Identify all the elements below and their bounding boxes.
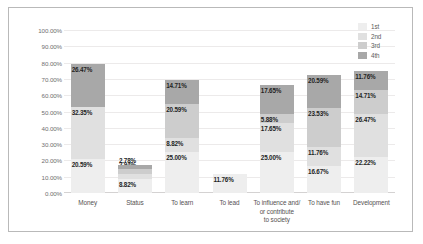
bar-segment-value-label: 14.71% <box>355 92 375 99</box>
bar-segment-value-label: 23.53% <box>308 110 328 117</box>
bar-segment-value-label: 17.65% <box>261 87 281 94</box>
bar-segment-value-label: 16.67% <box>308 168 328 175</box>
x-axis-category-label-line: to society <box>247 216 306 225</box>
bar-segment[interactable]: 2.94% <box>118 169 152 174</box>
y-axis-tick-label: 0.00% <box>10 190 62 197</box>
bar-segment-value-label: 17.65% <box>261 125 281 132</box>
legend-item[interactable]: 2nd <box>358 32 402 42</box>
bar-segment[interactable]: 32.35% <box>71 107 105 160</box>
bar-segment[interactable]: 8.82% <box>118 179 152 193</box>
legend-item[interactable]: 3rd <box>358 41 402 51</box>
legend-label: 4th <box>371 52 379 59</box>
y-axis-tick-label: 100.00% <box>10 27 62 34</box>
bar-segment-value-label: 2.78% <box>119 157 136 164</box>
bar-segment[interactable]: 20.59% <box>71 159 105 193</box>
bar-segment[interactable]: 11.76% <box>354 71 388 90</box>
bar-segment[interactable]: 8.82% <box>165 138 199 152</box>
gridline <box>64 112 395 113</box>
legend-label: 1st <box>371 23 379 30</box>
y-axis-tick-label: 70.00% <box>10 75 62 82</box>
y-axis-tick-label: 80.00% <box>10 59 62 66</box>
y-axis-tick-label: 50.00% <box>10 108 62 115</box>
legend-item[interactable]: 1st <box>358 22 402 32</box>
bar-segment-value-label: 26.47% <box>72 66 92 73</box>
bar-segment[interactable]: 25.00% <box>260 152 294 193</box>
gridline <box>64 144 395 145</box>
bar-segment-value-label: 14.71% <box>166 82 186 89</box>
bar-segment-value-label: 25.00% <box>166 154 186 161</box>
x-axis-category-label: Development <box>342 199 401 208</box>
bar-segment[interactable]: 20.59% <box>165 104 199 138</box>
bar-segment[interactable]: 14.71% <box>165 80 199 104</box>
bar-segment[interactable]: 2.94% <box>118 174 152 179</box>
bar-segment[interactable]: 17.65% <box>260 85 294 114</box>
y-axis-tick-label: 30.00% <box>10 141 62 148</box>
bar-segment[interactable]: 11.76% <box>307 147 341 166</box>
bar-segment-value-label: 32.35% <box>72 109 92 116</box>
gridline <box>64 63 395 64</box>
legend-swatch <box>358 33 367 40</box>
y-axis-tick-label: 90.00% <box>10 43 62 50</box>
x-axis-category-label-line: Development <box>342 199 401 208</box>
gridline <box>64 30 395 31</box>
gridline <box>64 46 395 47</box>
legend-swatch <box>358 23 367 30</box>
gridline <box>64 79 395 80</box>
legend-label: 2nd <box>371 33 381 40</box>
bar-segment[interactable]: 14.71% <box>354 90 388 114</box>
bar-segment-value-label: 8.82% <box>119 181 136 188</box>
bar-segment[interactable]: 20.59% <box>307 75 341 109</box>
legend-item[interactable]: 4th <box>358 51 402 61</box>
bar-segment-value-label: 5.88% <box>261 116 278 123</box>
bar-segment-value-label: 20.59% <box>72 161 92 168</box>
plot-area: 20.59%32.35%26.47%8.82%2.94%2.94%2.78%25… <box>64 30 395 193</box>
bar-segment[interactable]: 5.88% <box>260 114 294 124</box>
bar-segment-value-label: 20.59% <box>308 77 328 84</box>
gridline <box>64 160 395 161</box>
legend-swatch <box>358 52 367 59</box>
bar-segment-value-label: 26.47% <box>355 116 375 123</box>
gridline <box>64 95 395 96</box>
bar-segment[interactable]: 26.47% <box>354 114 388 157</box>
bar-segment-value-label: 22.22% <box>355 159 375 166</box>
bar-segment-value-label: 11.76% <box>308 149 328 156</box>
bar-segment-value-label: 25.00% <box>261 154 281 161</box>
gridline <box>64 128 395 129</box>
bar-segment[interactable]: 17.65% <box>260 123 294 152</box>
bar-segment-value-label: 8.82% <box>166 140 183 147</box>
bar-segment[interactable]: 11.76% <box>213 174 247 193</box>
chart-frame: 0.00%10.00%20.00%30.00%40.00%50.00%60.00… <box>8 7 413 232</box>
bar-segment[interactable]: 25.00% <box>165 152 199 193</box>
bar-segment-value-label: 20.59% <box>166 106 186 113</box>
legend-swatch <box>358 42 367 49</box>
x-axis-labels: MoneyStatusTo learnTo leadTo influence a… <box>64 195 395 235</box>
bar-segment[interactable]: 22.22% <box>354 157 388 193</box>
legend-label: 3rd <box>371 42 380 49</box>
y-axis-tick-label: 20.00% <box>10 157 62 164</box>
bar-segment-value-label: 11.76% <box>214 176 234 183</box>
bar-segment[interactable]: 2.78% <box>118 165 152 170</box>
bar-segment[interactable]: 23.53% <box>307 108 341 146</box>
y-axis: 0.00%10.00%20.00%30.00%40.00%50.00%60.00… <box>9 30 62 193</box>
x-axis-category-label-line: or contribute <box>247 208 306 217</box>
bar-segment[interactable]: 16.67% <box>307 166 341 193</box>
chart-legend: 1st2nd3rd4th <box>358 22 402 60</box>
y-axis-tick-label: 60.00% <box>10 92 62 99</box>
y-axis-tick-label: 10.00% <box>10 173 62 180</box>
bar-segment-value-label: 11.76% <box>355 73 375 80</box>
bar-segment[interactable]: 26.47% <box>71 64 105 107</box>
y-axis-tick-label: 40.00% <box>10 124 62 131</box>
